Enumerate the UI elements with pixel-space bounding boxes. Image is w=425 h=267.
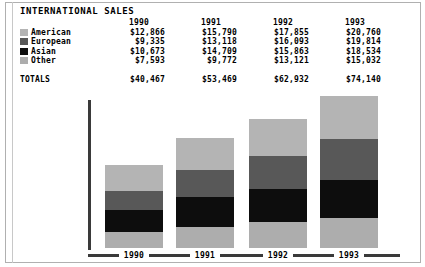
bar-segment-asian-1991 [176,197,234,227]
stacked-bar-chart: 1990199119921993 [0,0,425,267]
bar-segment-asian-1990 [105,210,163,232]
x-axis-segment [220,254,263,257]
chart-screenshot: INTERNATIONAL SALES 1990 1991 1992 1993 … [0,0,425,267]
bar-segment-european-1992 [249,156,307,189]
x-label-1992: 1992 [258,251,298,260]
bar-segment-other-1991 [176,227,234,248]
y-axis-line [88,100,91,250]
bar-segment-other-1992 [249,222,307,248]
x-axis-segment [149,254,190,257]
bar-segment-european-1993 [320,139,378,180]
bar-segment-asian-1992 [249,189,307,222]
bar-segment-american-1991 [176,138,234,170]
bar-segment-asian-1993 [320,180,378,218]
bar-1992 [249,119,307,248]
x-label-1993: 1993 [329,251,369,260]
bar-segment-other-1990 [105,232,163,248]
x-axis-segment [364,254,400,257]
bar-segment-american-1990 [105,165,163,191]
bar-segment-european-1991 [176,170,234,197]
bar-segment-american-1992 [249,119,307,156]
bar-1993 [320,96,378,248]
bar-1991 [176,138,234,248]
x-label-1990: 1990 [114,251,154,260]
x-axis-segment [293,254,334,257]
bar-segment-other-1993 [320,218,378,248]
x-label-1991: 1991 [185,251,225,260]
bar-1990 [105,165,163,248]
bar-segment-european-1990 [105,191,163,210]
bar-segment-american-1993 [320,96,378,139]
